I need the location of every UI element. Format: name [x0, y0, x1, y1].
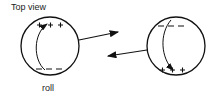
- left-sphere: [21, 17, 79, 75]
- plus-charges-icon: [37, 23, 63, 28]
- right-arrow-icon: [79, 32, 118, 40]
- right-sphere: [147, 17, 205, 75]
- left-arrow-icon: [108, 50, 147, 56]
- roll-arrow-icon: [36, 24, 47, 70]
- diagram-canvas: [0, 0, 217, 96]
- roll-arrow-icon: [163, 20, 173, 70]
